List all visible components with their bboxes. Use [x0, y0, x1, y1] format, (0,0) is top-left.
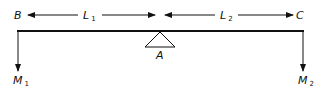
dimension-l2: L2 [165, 9, 293, 23]
label-fulcrum-a: A [155, 49, 164, 62]
label-m2: M2 [298, 74, 314, 86]
label-point-b: B [14, 9, 22, 22]
dimension-l1: L1 [28, 9, 155, 23]
label-l2: L2 [220, 9, 233, 23]
label-point-c: C [296, 9, 304, 22]
lever-diagram: B C L1 L2 A M1 M2 [0, 0, 323, 86]
label-l1: L1 [83, 9, 96, 23]
label-m1: M1 [13, 74, 29, 86]
fulcrum-triangle-icon [145, 32, 175, 47]
